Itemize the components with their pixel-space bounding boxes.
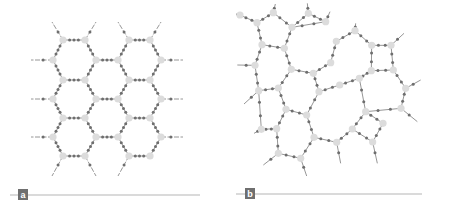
bridge-atom	[57, 30, 60, 33]
bridge-atom	[318, 68, 321, 71]
bridge-atom	[59, 111, 62, 114]
bridge-atom	[319, 137, 322, 140]
bridge-atom	[396, 38, 399, 41]
network-node	[125, 152, 132, 159]
bridge-atom	[360, 89, 363, 92]
bridge-atom	[55, 92, 58, 95]
bridge-atom	[153, 30, 156, 33]
bridge-atom	[292, 155, 295, 158]
bridge-atom	[152, 84, 155, 87]
network-node	[81, 76, 88, 83]
network-node	[59, 114, 66, 121]
network-node	[59, 152, 66, 159]
network-node	[336, 81, 343, 88]
bridge-atom	[138, 39, 141, 42]
bridge-atom	[369, 114, 372, 117]
bridge-atom	[57, 164, 60, 167]
bridge-atom	[154, 69, 157, 72]
bridge-atom	[57, 145, 60, 148]
bridge-atom	[101, 136, 104, 139]
bridge-atom	[123, 30, 126, 33]
bridge-atom	[348, 32, 351, 35]
bridge-atom	[309, 142, 312, 145]
bridge-atom	[291, 110, 294, 113]
bridge-atom	[389, 108, 392, 111]
bridge-atom	[68, 155, 71, 158]
network-node	[297, 155, 304, 162]
bridge-atom	[271, 87, 274, 90]
bridge-atom	[101, 98, 104, 101]
network-node	[146, 36, 153, 43]
network-node	[310, 70, 317, 77]
network-node	[275, 150, 282, 157]
bridge-atom	[281, 115, 284, 118]
network-node	[157, 133, 164, 140]
bridge-atom	[152, 149, 155, 152]
network-node	[114, 56, 121, 63]
bridge-atom	[331, 86, 334, 89]
network-node	[390, 66, 397, 73]
bridge-atom	[152, 45, 155, 48]
bridge-atom	[87, 122, 90, 125]
bridge-atom	[384, 69, 387, 72]
network-node	[236, 11, 243, 18]
bridge-atom	[91, 103, 94, 106]
bridge-atom	[314, 77, 317, 80]
figure: a b	[0, 0, 449, 211]
network-node	[49, 56, 56, 63]
bond	[277, 129, 279, 154]
network-node	[157, 95, 164, 102]
bond	[259, 91, 262, 130]
bridge-atom	[57, 126, 60, 129]
bridge-atom	[324, 64, 327, 67]
bridge-atom	[259, 114, 262, 117]
bridge-atom	[337, 151, 340, 154]
bond	[352, 129, 372, 142]
network-node	[349, 125, 356, 132]
bridge-atom	[267, 14, 270, 17]
bridge-atom	[285, 154, 288, 157]
network-node	[402, 85, 409, 92]
network-node	[368, 67, 375, 74]
bridge-atom	[306, 7, 309, 10]
bridge-atom	[73, 79, 76, 82]
bridge-atom	[120, 103, 123, 106]
network-node	[81, 152, 88, 159]
bridge-atom	[370, 60, 373, 63]
bridge-atom	[400, 80, 403, 83]
network-node	[305, 10, 312, 17]
network-node	[258, 41, 265, 48]
bridge-atom	[276, 136, 279, 139]
bridge-atom	[245, 64, 248, 67]
panel-a-label: a	[10, 189, 200, 200]
bridge-atom	[305, 71, 308, 74]
bridge-atom	[312, 22, 315, 25]
bridge-atom	[122, 126, 125, 129]
bridge-atom	[154, 49, 157, 52]
bridge-atom	[134, 39, 137, 42]
bridge-atom	[124, 84, 127, 87]
bridge-atom	[324, 88, 327, 91]
bridge-atom	[110, 136, 113, 139]
bridge-atom	[89, 107, 92, 110]
bridge-atom	[122, 69, 125, 72]
bridge-atom	[316, 84, 319, 87]
bridge-atom	[42, 59, 45, 62]
bridge-atom	[259, 37, 262, 40]
bridge-atom	[106, 59, 109, 62]
bridge-atom	[110, 59, 113, 62]
bridge-atom	[152, 73, 155, 76]
bridge-atom	[333, 46, 336, 49]
bridge-atom	[134, 155, 137, 158]
network-node	[368, 42, 375, 49]
network-node	[125, 76, 132, 83]
bond	[301, 137, 314, 158]
bridge-atom	[304, 149, 307, 152]
network-node	[146, 76, 153, 83]
bridge-atom	[307, 120, 310, 123]
panel-b-label: b	[236, 188, 422, 199]
bridge-atom	[138, 79, 141, 82]
bridge-atom	[327, 139, 330, 142]
bridge-atom	[286, 39, 289, 42]
bridge-atom	[152, 122, 155, 125]
